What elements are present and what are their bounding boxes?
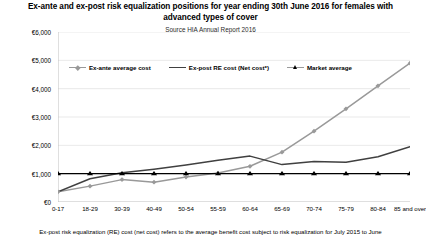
y-axis-labels: €0€1,000€2,000€3,000€4,000€5,000€6,000 xyxy=(0,32,55,202)
series-line xyxy=(58,63,410,192)
data-point-marker xyxy=(248,164,253,169)
chart-title: Ex-ante and ex-post risk equalization po… xyxy=(0,2,421,23)
y-axis-tick-label: €0 xyxy=(44,199,51,206)
x-axis-tick-label: 70-74 xyxy=(306,205,322,212)
gridlines xyxy=(58,32,410,202)
data-point-marker xyxy=(58,189,60,194)
x-axis-labels: 0-1718-2930-3940-4950-5455-5960-6465-697… xyxy=(58,205,410,217)
chart-footnote: Ex-post risk equalization (RE) cost (net… xyxy=(0,228,421,236)
x-axis-tick-label: 30-39 xyxy=(114,205,130,212)
y-axis-tick-label: €1,000 xyxy=(32,170,51,177)
data-point-marker xyxy=(88,184,93,189)
y-axis-tick-label: €3,000 xyxy=(32,114,51,121)
plot-area xyxy=(58,32,410,202)
data-point-marker xyxy=(120,177,125,182)
data-point-marker xyxy=(184,175,189,180)
x-axis-tick-label: 18-29 xyxy=(82,205,98,212)
data-point-marker xyxy=(152,180,157,185)
x-axis-tick-label: 40-49 xyxy=(146,205,162,212)
x-axis-tick-label: 65-69 xyxy=(274,205,290,212)
title-block: Ex-ante and ex-post risk equalization po… xyxy=(0,2,421,34)
y-axis-tick-label: €6,000 xyxy=(32,29,51,36)
y-axis-tick-label: €2,000 xyxy=(32,142,51,149)
plot-svg xyxy=(58,32,410,202)
x-axis-tick-label: 0-17 xyxy=(52,205,64,212)
y-axis-tick-label: €4,000 xyxy=(32,85,51,92)
x-axis-tick-label: 60-64 xyxy=(242,205,258,212)
x-axis-tick-label: 85 and over xyxy=(394,205,426,212)
x-axis-tick-label: 80-84 xyxy=(370,205,386,212)
x-axis-tick-label: 55-59 xyxy=(210,205,226,212)
x-axis-tick-label: 75-79 xyxy=(338,205,354,212)
y-axis-tick-label: €5,000 xyxy=(32,57,51,64)
series-lines xyxy=(58,63,410,192)
x-axis-tick-label: 50-54 xyxy=(178,205,194,212)
